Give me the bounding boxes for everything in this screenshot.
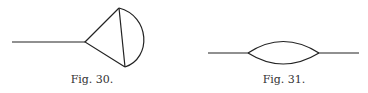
fig-31-diagram	[208, 42, 359, 65]
fig-31-caption: Fig. 31.	[263, 73, 306, 86]
figure-page: Fig. 30. Fig. 31.	[0, 0, 368, 93]
fig-30-diagram	[12, 8, 144, 67]
fig-31-lower-arc	[248, 53, 319, 64]
fig-30-chord	[119, 8, 125, 67]
fig-31-upper-arc	[248, 42, 319, 54]
fig-30-triangle-sides	[85, 8, 125, 67]
fig-30-arc	[119, 8, 144, 67]
diagrams-canvas	[0, 0, 368, 93]
fig-30-caption: Fig. 30.	[71, 73, 114, 86]
